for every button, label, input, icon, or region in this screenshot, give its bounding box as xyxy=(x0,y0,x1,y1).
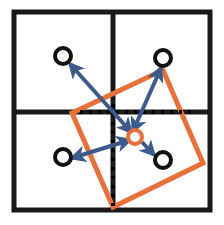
figure-svg xyxy=(0,0,224,225)
center-sample-point xyxy=(128,130,142,144)
sample-point-top-left xyxy=(55,48,71,64)
sample-point-bottom-right xyxy=(155,152,171,168)
figure-canvas xyxy=(0,0,224,225)
sample-point-top-right xyxy=(155,50,171,66)
sample-point-bottom-left xyxy=(55,149,71,165)
